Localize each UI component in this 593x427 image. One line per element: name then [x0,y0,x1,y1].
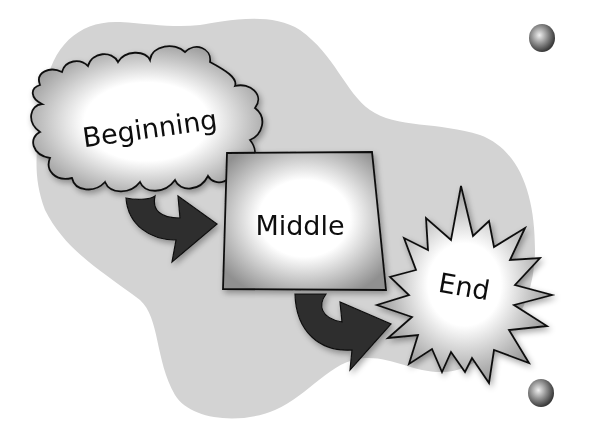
sphere-icon [529,24,555,52]
middle-node: Middle [223,152,386,290]
story-flow-diagram: Beginning Middle End [0,0,593,427]
sphere-icon [528,379,554,407]
middle-label: Middle [255,210,344,241]
